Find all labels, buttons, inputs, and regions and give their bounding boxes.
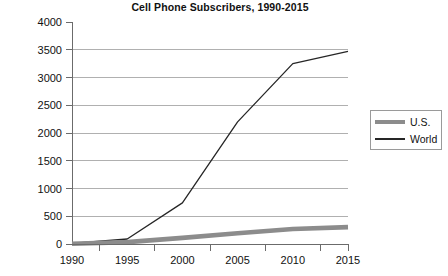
x-tick-label-2010: 2010 (281, 254, 305, 266)
cell-phone-subscribers-chart: Cell Phone Subscribers, 1990-2015 (0, 0, 448, 276)
y-tick-label-4000: 4000 (38, 16, 62, 28)
gridlines (72, 50, 348, 217)
x-tick-labels: 1990 1995 2000 2005 2010 2015 (60, 254, 360, 266)
x-axis (72, 244, 348, 251)
y-axis (66, 22, 72, 244)
series-line-world (72, 51, 348, 243)
y-tick-label-2000: 2000 (38, 127, 62, 139)
y-tick-labels: 4000 3500 3000 2500 2000 1500 1000 500 0 (38, 16, 62, 250)
x-tick-label-1995: 1995 (115, 254, 139, 266)
legend-swatch-us-icon (375, 120, 405, 124)
legend-label-us: U.S. (410, 117, 430, 128)
x-tick-label-2015: 2015 (336, 254, 360, 266)
y-tick-label-0: 0 (56, 238, 62, 250)
y-tick-label-3000: 3000 (38, 72, 62, 84)
y-tick-label-3500: 3500 (38, 44, 62, 56)
series-line-us (72, 227, 348, 244)
chart-legend: U.S. World (370, 110, 442, 150)
x-tick-label-1990: 1990 (60, 254, 84, 266)
y-tick-label-2500: 2500 (38, 99, 62, 111)
x-tick-label-2005: 2005 (225, 254, 249, 266)
legend-item-world: World (375, 131, 437, 147)
legend-item-us: U.S. (375, 114, 430, 130)
legend-swatch-world-icon (375, 138, 405, 140)
y-tick-label-500: 500 (44, 210, 62, 222)
legend-label-world: World (410, 134, 437, 145)
x-tick-label-2000: 2000 (170, 254, 194, 266)
y-tick-label-1500: 1500 (38, 155, 62, 167)
y-tick-label-1000: 1000 (38, 183, 62, 195)
